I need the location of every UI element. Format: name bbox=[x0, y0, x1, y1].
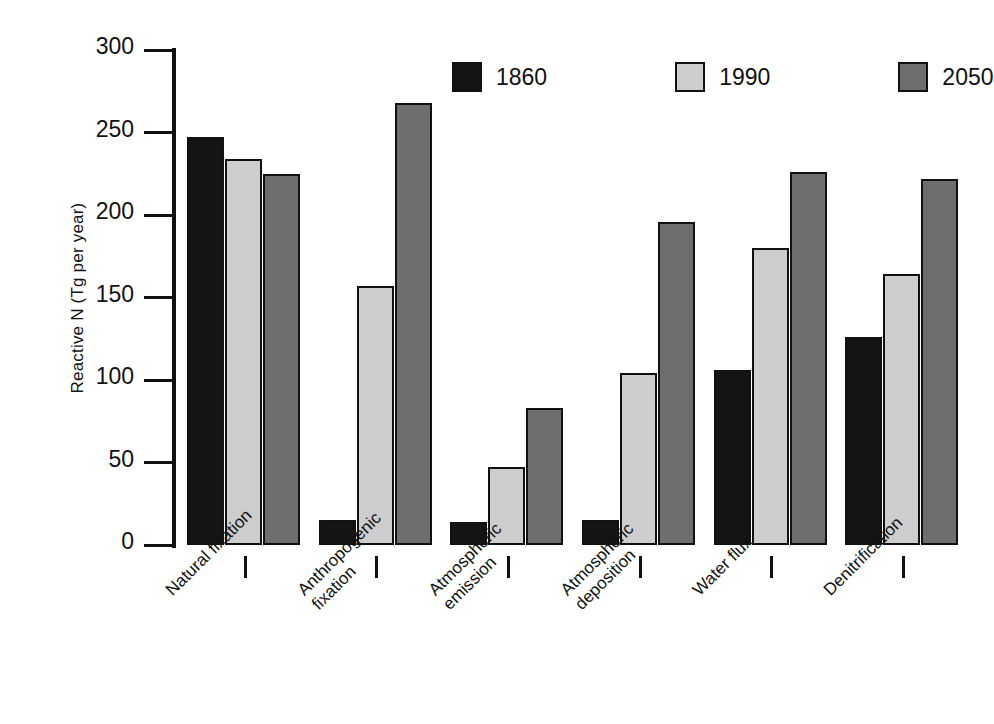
bar-1990 bbox=[620, 373, 657, 545]
bar-1860 bbox=[845, 337, 882, 545]
legend-item-1860: 1860 bbox=[452, 62, 547, 92]
y-axis-tick-label: 0 bbox=[121, 530, 134, 553]
bar-2050 bbox=[921, 179, 958, 545]
legend-label: 1860 bbox=[496, 66, 547, 89]
bar-1990 bbox=[357, 286, 394, 545]
y-axis-tick-mark bbox=[144, 49, 174, 52]
y-axis-tick-label: 200 bbox=[96, 200, 134, 223]
bar-2050 bbox=[658, 222, 695, 545]
y-axis-tick-label: 150 bbox=[96, 283, 134, 306]
y-axis-tick-mark bbox=[144, 214, 174, 217]
legend-swatch-2050 bbox=[898, 62, 928, 92]
legend-swatch-1860 bbox=[452, 62, 482, 92]
y-axis-tick-mark bbox=[144, 131, 174, 134]
bar-group bbox=[187, 50, 300, 545]
bar-1990 bbox=[752, 248, 789, 545]
bar-2050 bbox=[526, 408, 563, 545]
legend-label: 1990 bbox=[719, 66, 770, 89]
y-axis-tick-label: 300 bbox=[96, 35, 134, 58]
bar-1860 bbox=[187, 137, 224, 545]
x-axis-tick-mark bbox=[770, 556, 773, 578]
bar-1990 bbox=[225, 159, 262, 545]
legend-item-1990: 1990 bbox=[675, 62, 770, 92]
bar-2050 bbox=[263, 174, 300, 545]
legend-swatch-1990 bbox=[675, 62, 705, 92]
x-axis-tick-mark bbox=[244, 556, 247, 578]
y-axis-tick-label: 250 bbox=[96, 118, 134, 141]
bar-2050 bbox=[395, 103, 432, 545]
chart-legend: 186019902050 bbox=[452, 62, 994, 92]
bar-group bbox=[845, 50, 958, 545]
bar-group bbox=[714, 50, 827, 545]
y-axis-tick-mark bbox=[144, 544, 174, 547]
y-axis-tick-mark bbox=[144, 379, 174, 382]
y-axis-tick-label: 100 bbox=[96, 365, 134, 388]
plot-area bbox=[174, 50, 964, 545]
bar-group bbox=[319, 50, 432, 545]
y-axis-title: Reactive N (Tg per year) bbox=[68, 168, 88, 428]
y-axis-tick-mark bbox=[144, 296, 174, 299]
y-axis-tick-label: 50 bbox=[108, 448, 134, 471]
legend-item-2050: 2050 bbox=[898, 62, 993, 92]
bar-2050 bbox=[790, 172, 827, 545]
bar-group bbox=[582, 50, 695, 545]
x-axis-tick-mark bbox=[902, 556, 905, 578]
bar-group bbox=[450, 50, 563, 545]
bar-1860 bbox=[714, 370, 751, 545]
legend-label: 2050 bbox=[942, 66, 993, 89]
y-axis-tick-mark bbox=[144, 461, 174, 464]
bar-1990 bbox=[883, 274, 920, 545]
